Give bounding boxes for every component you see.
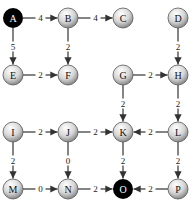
node-label: O [119, 184, 126, 195]
edge-p-o: 2 [134, 184, 169, 194]
edge-weight-label: 2 [11, 156, 16, 166]
node-label: D [174, 13, 181, 24]
node-label: F [65, 70, 71, 81]
edge-weight-label: 2 [176, 42, 181, 52]
node-h: H [168, 65, 188, 85]
node-label: A [9, 13, 17, 24]
node-k: K [113, 122, 133, 142]
edge-weight-label: 2 [148, 184, 153, 194]
node-f: F [58, 65, 78, 85]
edge-weight-label: 4 [93, 13, 98, 23]
edge-l-p: 2 [176, 142, 181, 179]
edge-weight-label: 2 [148, 70, 153, 80]
node-label: E [10, 70, 16, 81]
node-label: C [120, 13, 127, 24]
edge-j-k: 2 [78, 127, 113, 137]
node-o: O [113, 179, 133, 199]
node-label: G [119, 70, 126, 81]
edge-weight-label: 2 [66, 42, 71, 52]
node-a: A [3, 8, 23, 28]
edge-l-k: 2 [134, 127, 169, 137]
node-c: C [113, 8, 133, 28]
edge-weight-label: 5 [11, 42, 16, 52]
node-label: L [175, 127, 181, 138]
edge-a-e: 5 [11, 28, 16, 65]
node-l: L [168, 122, 188, 142]
edge-weight-label: 2 [121, 99, 126, 109]
node-g: G [113, 65, 133, 85]
node-label: J [66, 127, 70, 138]
node-i: I [3, 122, 23, 142]
edge-weight-label: 2 [38, 70, 43, 80]
edge-j-n: 0 [66, 142, 71, 179]
edge-weight-label: 0 [66, 156, 71, 166]
node-n: N [58, 179, 78, 199]
edge-n-o: 2 [78, 184, 113, 194]
edge-weight-label: 2 [93, 127, 98, 137]
node-label: B [65, 13, 72, 24]
edge-g-h: 2 [133, 70, 168, 80]
graph-diagram: 4452222222222022022 ABCDEFGHIJKLMNOP [0, 0, 190, 208]
node-d: D [168, 8, 188, 28]
edge-weight-label: 2 [176, 99, 181, 109]
edge-b-f: 2 [66, 28, 71, 65]
edge-g-k: 2 [121, 85, 126, 122]
edge-e-f: 2 [23, 70, 58, 80]
edge-a-b: 4 [23, 13, 58, 23]
edge-h-l: 2 [176, 85, 181, 122]
node-label: I [11, 127, 14, 138]
edge-weight-label: 2 [93, 184, 98, 194]
edges-layer: 4452222222222022022 [11, 13, 181, 194]
node-m: M [3, 179, 23, 199]
node-label: H [174, 70, 181, 81]
node-label: K [119, 127, 127, 138]
edge-m-n: 0 [23, 184, 58, 194]
node-label: N [64, 184, 71, 195]
edge-weight-label: 4 [38, 13, 43, 23]
node-b: B [58, 8, 78, 28]
edge-d-h: 2 [176, 28, 181, 65]
edge-weight-label: 2 [176, 156, 181, 166]
node-j: J [58, 122, 78, 142]
edge-i-m: 2 [11, 142, 16, 179]
edge-weight-label: 2 [38, 127, 43, 137]
node-p: P [168, 179, 188, 199]
edge-b-c: 4 [78, 13, 113, 23]
edge-weight-label: 2 [148, 127, 153, 137]
edge-weight-label: 2 [121, 156, 126, 166]
nodes-layer: ABCDEFGHIJKLMNOP [3, 8, 188, 199]
node-e: E [3, 65, 23, 85]
edge-i-j: 2 [23, 127, 58, 137]
node-label: P [175, 184, 181, 195]
edge-weight-label: 0 [38, 184, 43, 194]
node-label: M [9, 184, 18, 195]
edge-k-o: 2 [121, 142, 126, 179]
